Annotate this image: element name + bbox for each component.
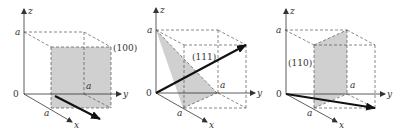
a-label-z: a — [147, 25, 152, 35]
x-label: x — [209, 120, 214, 130]
x-label: x — [74, 120, 79, 130]
panel-110: z y x 0 a a a (110) — [276, 6, 393, 130]
a-label-x: a — [177, 108, 182, 118]
origin-label: 0 — [276, 89, 282, 99]
panel-111: z y x 0 a a a (111) — [146, 5, 263, 130]
plane-label: (100) — [113, 43, 137, 53]
panel-100: z y x 0 a a a (100) — [13, 6, 137, 130]
a-label-y: a — [86, 81, 91, 91]
origin-label: 0 — [13, 89, 19, 99]
a-label-x: a — [307, 108, 312, 118]
a-label-z: a — [15, 27, 20, 37]
a-label-z: a — [276, 25, 281, 35]
plane-label: (110) — [288, 58, 312, 68]
a-label-x: a — [44, 108, 49, 118]
z-label: z — [289, 6, 295, 16]
miller-indices-figure: z y x 0 a a a (100) z y x 0 — [0, 0, 400, 133]
z-label: z — [159, 5, 165, 15]
plane-111 — [156, 30, 217, 108]
a-label-y: a — [220, 80, 225, 90]
origin-label: 0 — [146, 88, 152, 98]
y-label: y — [386, 89, 393, 99]
z-label: z — [27, 6, 33, 16]
plane-label: (111) — [192, 52, 216, 62]
x-label: x — [339, 120, 344, 130]
y-label: y — [122, 89, 129, 99]
y-label: y — [256, 88, 263, 98]
a-label-y: a — [350, 80, 355, 90]
